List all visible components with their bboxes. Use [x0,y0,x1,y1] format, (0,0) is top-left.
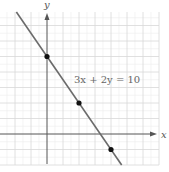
equation-label: 3x + 2y = 10 [74,74,140,85]
x-axis-label: x [161,129,167,140]
data-point [76,100,81,105]
minor-grid [0,12,159,165]
graph: x y 3x + 2y = 10 [0,0,169,172]
data-point [108,147,113,152]
axes [0,13,157,164]
y-axis-label: y [43,0,50,10]
x-axis-arrow-icon [150,132,157,137]
data-point [44,54,49,59]
y-axis-arrow-icon [45,13,50,20]
